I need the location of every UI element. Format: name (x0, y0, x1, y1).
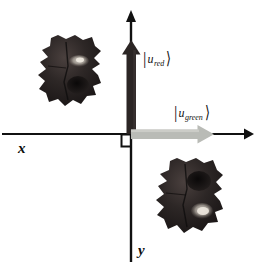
blob-lower-right-recess (187, 171, 211, 191)
ket-bar-red: | (143, 50, 146, 67)
u-green-vector-shading (131, 130, 199, 133)
ket-angle-red: ⟩ (166, 50, 171, 67)
y-axis-label: y (138, 243, 145, 258)
blob-lower-right-body (156, 158, 223, 233)
blob-upper-left-specular (76, 58, 84, 63)
u-red-ket-label: |ured⟩ (143, 49, 172, 66)
u-green-vector-arrowhead-icon (198, 125, 215, 144)
blob-upper-left-recess (67, 76, 89, 94)
u-green-ket-label: |ugreen⟩ (174, 103, 211, 120)
x-axis-arrowhead-icon (244, 129, 254, 140)
u-red-vector-shading (133, 50, 136, 134)
blob-lower-right (156, 158, 223, 233)
ket-angle-green: ⟩ (205, 104, 210, 121)
u-red-vector (122, 40, 141, 134)
right-angle-marker (122, 135, 132, 147)
x-axis-label: x (18, 141, 26, 156)
ket-bar-green: | (174, 104, 177, 121)
blob-upper-left (38, 35, 101, 106)
blob-upper-left-body (38, 35, 101, 106)
u-green-vector (131, 125, 214, 144)
ket-symbol-green: u (178, 107, 184, 119)
y-axis-arrowhead-icon (126, 10, 136, 22)
blob-lower-right-specular (197, 207, 209, 215)
quantum-state-vector-diagram: x y |ured⟩ |ugreen⟩ (0, 0, 259, 269)
ket-symbol-red: u (147, 53, 153, 65)
ket-subscript-red: red (154, 60, 164, 68)
ket-subscript-green: green (185, 114, 203, 122)
diagram-canvas (0, 0, 259, 269)
u-red-vector-arrowhead-icon (122, 40, 141, 55)
